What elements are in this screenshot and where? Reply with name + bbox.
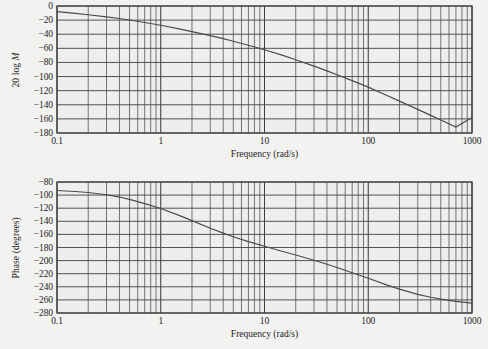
magnitude-panel: 20 log M 0−20−40−60−80−100−120−140−160−1… <box>0 0 488 170</box>
phase-panel: Phase (degrees) −80−100−120−140−160−180−… <box>0 170 488 349</box>
magnitude-plot-area <box>0 0 488 170</box>
phase-plot-area <box>0 170 488 349</box>
magnitude-x-axis-label: Frequency (rad/s) <box>231 149 298 159</box>
bode-plot-figure: 20 log M 0−20−40−60−80−100−120−140−160−1… <box>0 0 488 349</box>
phase-x-axis-label: Frequency (rad/s) <box>231 329 298 339</box>
